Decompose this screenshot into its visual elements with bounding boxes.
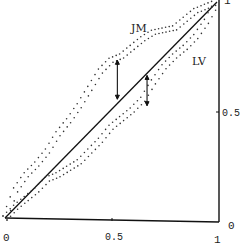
x-tick-label-0: 0	[3, 233, 10, 244]
diagonal-line	[5, 2, 217, 218]
x-tick-label-1: 1	[214, 235, 221, 246]
gap-arrows	[115, 60, 149, 105]
x-tick-label-half: 0.5	[105, 233, 123, 243]
label-lv: LV	[192, 56, 206, 67]
y-tick-label-half: 0.5	[222, 109, 240, 119]
series-lv-dots	[2, 5, 216, 220]
y-tick-label-0: 0	[228, 221, 235, 232]
label-jm: JM	[131, 23, 147, 34]
y-tick-label-1: 1	[224, 0, 231, 7]
chart-canvas	[0, 0, 242, 249]
